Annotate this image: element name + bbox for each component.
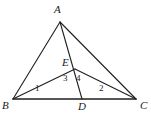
- vertex-label-A: A: [54, 4, 61, 15]
- vertex-label-E: E: [62, 57, 69, 68]
- vertex-label-D: D: [78, 101, 86, 112]
- segment-EC: [75, 69, 136, 99]
- angle-label-2: 2: [99, 84, 104, 93]
- vertex-label-B: B: [2, 100, 9, 111]
- angle-label-1: 1: [35, 84, 40, 93]
- angle-label-3: 3: [63, 74, 68, 83]
- vertex-label-C: C: [140, 100, 147, 111]
- geometry-figure: A B C D E 1 2 3 4: [0, 0, 151, 114]
- segment-group: [13, 22, 136, 99]
- figure-canvas: [0, 0, 151, 114]
- angle-label-4: 4: [76, 74, 81, 83]
